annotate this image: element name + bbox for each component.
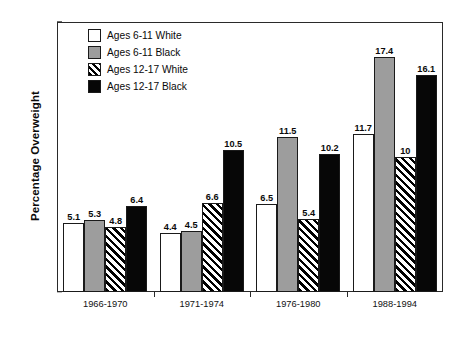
bar-value-label: 4.8 — [109, 216, 122, 226]
bar: 4.8 — [105, 227, 126, 292]
bar-value-label: 11.7 — [355, 123, 372, 133]
legend-swatch-icon — [88, 46, 101, 59]
bar-value-label: 5.4 — [302, 208, 315, 218]
bar-value-label: 5.3 — [88, 209, 101, 219]
legend-swatch-icon — [88, 80, 101, 93]
bar-value-label: 6.4 — [130, 195, 143, 205]
bar: 11.5 — [277, 137, 298, 292]
legend-item-label: Ages 6-11 White — [107, 30, 182, 41]
y-axis-title: Percentage Overweight — [29, 61, 41, 251]
bar-value-label: 6.5 — [260, 193, 273, 203]
x-tick-mark — [154, 292, 155, 297]
legend-swatch-icon — [88, 63, 101, 76]
bar-value-label: 11.5 — [279, 126, 296, 136]
legend-item-label: Ages 6-11 Black — [107, 47, 180, 58]
legend-item: Ages 6-11 Black — [88, 45, 188, 59]
bar: 6.4 — [126, 206, 147, 292]
bar: 5.3 — [84, 220, 105, 292]
bar-value-label: 4.5 — [185, 220, 198, 230]
x-tick-label: 1988-1994 — [335, 299, 455, 309]
bar: 17.4 — [374, 57, 395, 292]
legend-item: Ages 12-17 Black — [88, 80, 188, 94]
bar: 4.5 — [181, 231, 202, 292]
legend-item-label: Ages 12-17 White — [107, 64, 188, 75]
bar: 5.1 — [63, 223, 84, 292]
bar-value-label: 10 — [400, 146, 410, 156]
legend-swatch-icon — [88, 29, 101, 42]
bar-value-label: 17.4 — [375, 46, 393, 56]
bar: 16.1 — [416, 75, 437, 292]
x-tick-mark — [347, 292, 348, 297]
bar: 11.7 — [353, 134, 374, 292]
bar-value-label: 6.6 — [206, 192, 219, 202]
bar: 5.4 — [298, 219, 319, 292]
bar-value-label: 5.1 — [67, 212, 80, 222]
bar-chart: Percentage Overweight 02468101214161820 … — [0, 0, 461, 337]
bar: 10.2 — [319, 154, 340, 292]
bar-value-label: 4.4 — [164, 222, 177, 232]
bar: 10 — [395, 157, 416, 292]
bar: 6.6 — [202, 203, 223, 292]
bar: 6.5 — [256, 204, 277, 292]
bar: 10.5 — [223, 150, 244, 292]
legend-item: Ages 12-17 White — [88, 62, 188, 76]
page-bleed-artifact — [0, 325, 461, 337]
bar-value-label: 16.1 — [417, 64, 435, 74]
legend-item-label: Ages 12-17 Black — [107, 81, 187, 92]
legend-item: Ages 6-11 White — [88, 28, 188, 42]
x-tick-mark — [250, 292, 251, 297]
bar-value-label: 10.2 — [321, 143, 339, 153]
chart-legend: Ages 6-11 WhiteAges 6-11 BlackAges 12-17… — [88, 28, 188, 94]
bar: 4.4 — [160, 233, 181, 292]
bar-value-label: 10.5 — [224, 139, 242, 149]
